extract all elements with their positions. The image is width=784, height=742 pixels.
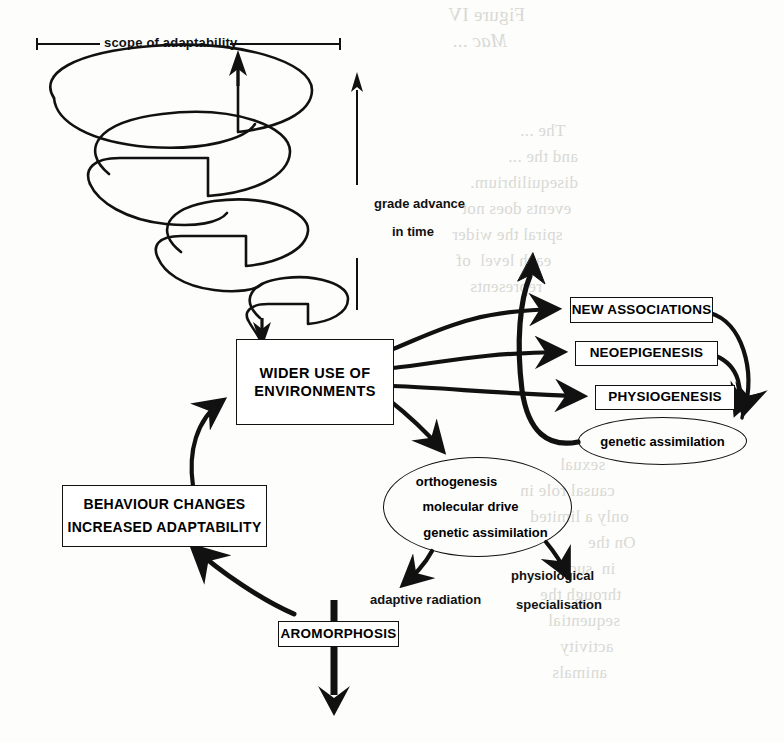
node-label-line2: INCREASED ADAPTABILITY xyxy=(67,519,261,537)
evolution-spiral xyxy=(50,45,348,344)
grade-advance-label-line2: in time xyxy=(392,224,434,239)
node-new-associations[interactable]: NEW ASSOCIATIONS xyxy=(570,297,713,323)
grade-advance-axis xyxy=(351,72,363,310)
node-aromorphosis[interactable]: AROMORPHOSIS xyxy=(278,621,399,647)
label-physiological-line2: specialisation xyxy=(516,597,602,612)
node-label-line2: ENVIRONMENTS xyxy=(254,382,376,400)
arrow-mech-to-adaptive-radiation xyxy=(404,551,432,584)
aromorphosis-stem xyxy=(318,600,350,716)
figure-page: Figure IV Mac ... The ... and the ... di… xyxy=(0,0,784,742)
node-label-line1: WIDER USE OF xyxy=(259,364,370,382)
node-label-line1: BEHAVIOUR CHANGES xyxy=(84,496,246,514)
node-label: NEW ASSOCIATIONS xyxy=(572,302,712,319)
label-text: adaptive radiation xyxy=(370,592,481,607)
arrow-wider-to-new-associations xyxy=(393,309,556,349)
arrow-aromorphosis-to-behaviour xyxy=(194,548,294,614)
node-label: NEOEPIGENESIS xyxy=(590,345,704,362)
node-mechanisms-ellipse[interactable]: orthogenesis molecular drive genetic ass… xyxy=(383,457,572,557)
label-physiological-line1: physiological xyxy=(511,568,594,583)
node-label-line3: genetic assimilation xyxy=(423,520,547,545)
arrow-behaviour-to-wider xyxy=(192,401,222,486)
node-label-line1: orthogenesis xyxy=(416,469,498,494)
node-genetic-assimilation-ellipse[interactable]: genetic assimilation xyxy=(578,417,747,465)
arrow-wider-to-mechanisms xyxy=(389,400,442,450)
node-label: PHYSIOGENESIS xyxy=(608,389,722,406)
node-label: AROMORPHOSIS xyxy=(280,626,396,643)
node-neoepigenesis[interactable]: NEOEPIGENESIS xyxy=(575,341,718,366)
node-label-line2: molecular drive xyxy=(422,494,518,519)
node-label: genetic assimilation xyxy=(600,434,724,449)
label-adaptive-radiation: adaptive radiation xyxy=(370,592,481,607)
grade-advance-label-line1: grade advance xyxy=(374,196,465,211)
node-behaviour-changes[interactable]: BEHAVIOUR CHANGES INCREASED ADAPTABILITY xyxy=(62,485,267,547)
spiral-top-arrow xyxy=(229,50,247,86)
arrow-wider-to-neoepigenesis xyxy=(393,352,562,368)
arrow-wider-to-physiogenesis xyxy=(393,386,582,396)
node-physiogenesis[interactable]: PHYSIOGENESIS xyxy=(595,385,735,410)
node-wider-use-of-environments[interactable]: WIDER USE OF ENVIRONMENTS xyxy=(236,339,394,425)
scope-of-adaptability-label: scope of adaptability xyxy=(104,35,238,50)
